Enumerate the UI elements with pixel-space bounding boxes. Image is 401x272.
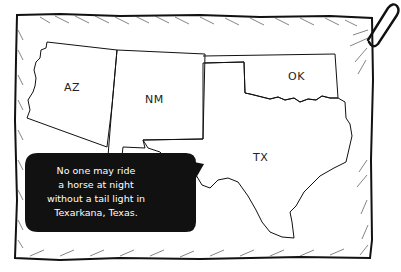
bubble-line: a horse at night (28, 178, 164, 192)
bubble-line: Texarkana, Texas. (28, 206, 164, 220)
state-label-tx: TX (253, 151, 268, 164)
bubble-line: without a tail light in (28, 192, 164, 206)
state-label-nm: NM (145, 93, 164, 106)
state-label-ok: OK (288, 70, 305, 83)
illustration: AZ NM OK TX No one may ride a horse at n… (0, 0, 401, 272)
state-label-az: AZ (64, 81, 80, 94)
paper-note-drawing (0, 0, 401, 272)
speech-bubble-text: No one may ride a horse at night without… (28, 164, 164, 220)
bubble-line: No one may ride (28, 164, 164, 178)
